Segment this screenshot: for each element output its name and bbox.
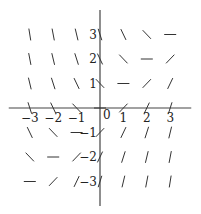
slope-segment	[75, 53, 79, 64]
y-tick-label: −3	[79, 175, 97, 189]
slope-segment	[121, 127, 126, 138]
slope-segment	[146, 176, 148, 188]
slope-segment	[49, 128, 57, 137]
y-tick-label: −1	[79, 126, 97, 140]
slope-segment	[145, 151, 148, 163]
slope-segment	[169, 151, 171, 163]
x-tick-label: 2	[143, 111, 151, 125]
y-tick-label: 2	[89, 52, 97, 66]
slope-segment	[26, 153, 34, 162]
slope-segment	[75, 29, 78, 41]
x-tick-label: −3	[21, 111, 39, 125]
slope-segment	[52, 29, 54, 41]
slope-segment	[119, 55, 127, 64]
slope-segment	[122, 151, 126, 162]
slope-segment	[52, 53, 55, 65]
slope-segment	[51, 78, 55, 89]
origin-label: 0	[103, 108, 111, 122]
slope-field-chart: −3−2−1123−3−2−11230	[0, 0, 201, 214]
x-tick-label: 3	[166, 111, 174, 125]
slope-segment	[49, 177, 57, 186]
x-tick-label: −1	[68, 111, 86, 125]
slope-segment	[122, 176, 125, 188]
slope-segment	[143, 79, 151, 88]
slope-segment	[29, 53, 31, 65]
slope-segment	[168, 78, 173, 89]
slope-segment	[166, 55, 174, 64]
slope-segment	[74, 78, 79, 89]
slope-segment	[145, 127, 149, 138]
x-tick-label: 1	[120, 111, 128, 125]
slope-segment	[28, 78, 31, 90]
slope-segment	[169, 176, 171, 188]
x-tick-label: −2	[44, 111, 62, 125]
slope-segment	[121, 29, 126, 40]
slope-segment	[29, 29, 31, 41]
slope-segment	[143, 30, 151, 39]
y-tick-label: 1	[89, 77, 97, 91]
slope-segment	[169, 127, 172, 139]
y-tick-label: 3	[89, 28, 97, 42]
slope-segment	[27, 127, 32, 138]
y-tick-label: −2	[79, 150, 97, 164]
